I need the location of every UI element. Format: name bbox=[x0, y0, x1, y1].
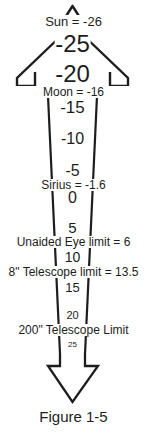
bottom-arrowhead bbox=[48, 354, 98, 402]
annotation-moon: Moon = -16 bbox=[0, 86, 145, 98]
tick-minus-15: -15 bbox=[59, 99, 86, 116]
annotation-sirius: Sirius = -1.6 bbox=[0, 179, 145, 191]
tick-20: 20 bbox=[65, 310, 79, 321]
tick-minus-20: -20 bbox=[54, 62, 91, 86]
shaft-right-edge bbox=[85, 96, 97, 354]
magnitude-scale-figure: -25 -20 -15 -10 -5 0 5 10 15 20 25 Sun =… bbox=[0, 0, 145, 440]
tick-15: 15 bbox=[64, 281, 80, 294]
figure-caption: Figure 1-5 bbox=[0, 409, 145, 424]
tick-25: 25 bbox=[67, 341, 78, 349]
tick-minus-25: -25 bbox=[54, 32, 91, 56]
shaft-left-edge bbox=[48, 96, 60, 354]
annotation-8in-telescope-limit: 8" Telescope limit = 13.5 bbox=[0, 266, 145, 278]
tick-minus-10: -10 bbox=[60, 131, 85, 147]
tick-5: 5 bbox=[67, 220, 77, 235]
tick-zero: 0 bbox=[67, 190, 78, 206]
annotation-unaided-eye-limit: Unaided Eye limit = 6 bbox=[0, 236, 145, 248]
annotation-sun: Sun = -26 bbox=[0, 15, 145, 28]
tick-10: 10 bbox=[64, 250, 82, 264]
tick-minus-5: -5 bbox=[64, 163, 80, 179]
annotation-200in-telescope-limit: 200" Telescope Limit bbox=[0, 324, 145, 336]
